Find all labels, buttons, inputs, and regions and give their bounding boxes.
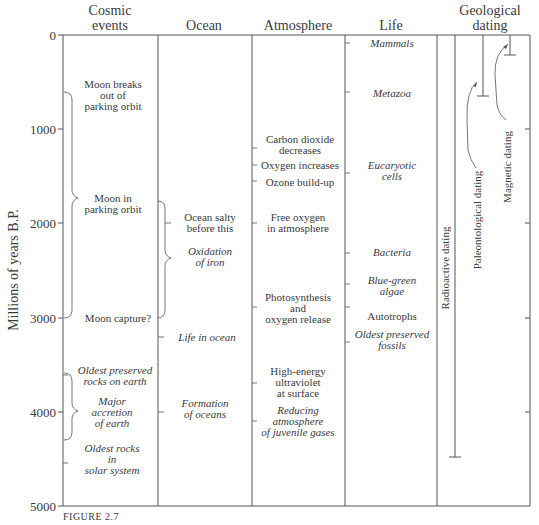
- event-moon-breaks: Moon breaks out of parking orbit: [84, 78, 142, 112]
- event-moon-capture: Moon capture?: [85, 312, 151, 324]
- y-tick-2000: 2000: [30, 216, 56, 231]
- atm-free-oxygen: Free oxygen in atmosphere: [267, 211, 329, 234]
- atm-high-energy-uv: High-energy ultraviolet at surface: [270, 365, 326, 399]
- header-geological-line2: dating: [473, 18, 508, 33]
- svg-text:oxygen release: oxygen release: [265, 313, 331, 325]
- header-life: Life: [379, 18, 402, 33]
- svg-text:Moon capture?: Moon capture?: [85, 312, 151, 324]
- ocean-oxidation-iron: Oxidation of iron: [188, 245, 232, 268]
- svg-text:of juvenile gases: of juvenile gases: [261, 426, 334, 438]
- cosmic-events-column: Moon breaks out of parking orbit Moon in…: [63, 78, 153, 476]
- atmosphere-column: Carbon dioxide decreases Oxygen increase…: [252, 133, 339, 438]
- svg-text:parking orbit: parking orbit: [84, 100, 141, 112]
- svg-text:of earth: of earth: [95, 417, 130, 429]
- svg-text:rocks on earth: rocks on earth: [83, 375, 147, 387]
- paleontological-arrow: [467, 82, 477, 168]
- svg-text:Oxygen increases: Oxygen increases: [261, 159, 339, 171]
- ocean-formation: Formation of oceans: [180, 397, 229, 420]
- svg-text:algae: algae: [380, 285, 405, 297]
- svg-text:decreases: decreases: [279, 144, 321, 156]
- y-axis-title: Millions of years B.P.: [6, 209, 21, 331]
- header-atmosphere: Atmosphere: [264, 18, 332, 33]
- svg-text:Ozone build-up: Ozone build-up: [266, 176, 335, 188]
- svg-text:fossils: fossils: [378, 339, 406, 351]
- life-mammals: Mammals: [369, 37, 413, 49]
- y-tick-5000: 5000: [30, 499, 56, 514]
- life-blue-green-algae: Blue-green algae: [368, 274, 417, 297]
- atm-reducing-atmosphere: Reducing atmosphere of juvenile gases: [261, 404, 334, 438]
- column-headers: Cosmic events Ocean Atmosphere Life Geol…: [89, 3, 521, 33]
- header-geological-line1: Geological: [459, 3, 521, 18]
- y-tick-1000: 1000: [30, 122, 56, 137]
- brace-accretion: [64, 373, 78, 440]
- header-ocean: Ocean: [186, 18, 222, 33]
- svg-text:Autotrophs: Autotrophs: [367, 310, 417, 322]
- svg-text:of oceans: of oceans: [184, 408, 226, 420]
- ocean-life-in-ocean: Life in ocean: [177, 331, 236, 343]
- header-cosmic-line2: events: [92, 18, 128, 33]
- magnetic-dating-label: Magnetic dating: [501, 131, 513, 203]
- event-moon-in-parking-orbit: Moon in parking orbit: [84, 192, 141, 215]
- ocean-column: Ocean salty before this Oxidation of iro…: [157, 201, 236, 420]
- figure-caption: FIGURE 2.7: [63, 511, 119, 522]
- svg-text:Metazoa: Metazoa: [372, 87, 411, 99]
- geologic-timeline-diagram: Cosmic events Ocean Atmosphere Life Geol…: [0, 0, 539, 525]
- atm-ozone-buildup: Ozone build-up: [266, 176, 335, 188]
- atm-oxygen-increases: Oxygen increases: [261, 159, 339, 171]
- svg-text:at surface: at surface: [277, 387, 320, 399]
- brace-ocean: [157, 201, 171, 318]
- life-column: Mammals Metazoa Eucaryotic cells Bacteri…: [345, 37, 430, 351]
- svg-text:in atmosphere: in atmosphere: [267, 222, 329, 234]
- atm-co2-decreases: Carbon dioxide decreases: [266, 133, 334, 156]
- paleontological-dating-label: Paleontological dating: [471, 170, 483, 269]
- svg-text:cells: cells: [382, 170, 402, 182]
- life-bacteria: Bacteria: [373, 246, 411, 258]
- atm-photosynthesis: Photosynthesis and oxygen release: [265, 291, 331, 325]
- event-major-accretion: Major accretion of earth: [91, 395, 133, 429]
- svg-text:solar system: solar system: [85, 464, 140, 476]
- brace-moon-parking: [64, 92, 78, 318]
- y-tick-4000: 4000: [30, 405, 56, 420]
- radioactive-dating-label: Radioactive dating: [439, 226, 451, 309]
- geological-dating-column: Radioactive dating Paleontological datin…: [439, 35, 516, 457]
- life-eucaryotic-cells: Eucaryotic cells: [367, 159, 416, 182]
- ocean-salty: Ocean salty before this: [184, 211, 236, 234]
- y-tick-3000: 3000: [30, 311, 56, 326]
- svg-text:parking orbit: parking orbit: [84, 203, 141, 215]
- svg-text:Mammals: Mammals: [369, 37, 413, 49]
- life-autotrophs: Autotrophs: [367, 310, 417, 322]
- life-metazoa: Metazoa: [372, 87, 411, 99]
- svg-text:of iron: of iron: [195, 256, 225, 268]
- svg-text:before this: before this: [187, 222, 234, 234]
- y-tick-0: 0: [50, 28, 57, 43]
- life-oldest-preserved-fossils: Oldest preserved fossils: [355, 328, 430, 351]
- svg-text:Life in ocean: Life in ocean: [177, 331, 236, 343]
- svg-text:Bacteria: Bacteria: [373, 246, 411, 258]
- event-oldest-preserved-rocks: Oldest preserved rocks on earth: [78, 364, 153, 387]
- event-oldest-rocks-solar-system: Oldest rocks in solar system: [85, 442, 140, 476]
- header-cosmic-line1: Cosmic: [89, 3, 132, 18]
